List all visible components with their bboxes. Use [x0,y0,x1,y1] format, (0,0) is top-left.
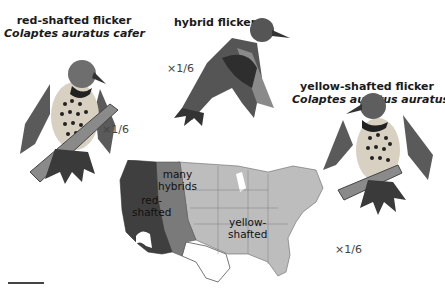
red-shafted-common-name: red-shafted flicker [4,14,144,27]
us-range-map [118,160,328,284]
map-label-red-shafted: red- shafted [132,194,171,218]
red-shafted-scale-label: ×1/6 [102,123,129,136]
yellow-shafted-scale-label: ×1/6 [335,243,362,256]
yellow-shafted-flicker-illustration [318,80,443,230]
scale-bar [8,282,44,284]
map-label-yellow-shafted: yellow- shafted [228,216,267,240]
red-shafted-title: red-shafted flicker Colaptes auratus caf… [4,14,144,40]
red-shafted-flicker-illustration [10,44,130,194]
hybrid-scale-label: ×1/6 [167,62,194,75]
red-shafted-scientific-name: Colaptes auratus cafer [4,27,144,40]
map-label-many-hybrids: many hybrids [158,168,197,192]
